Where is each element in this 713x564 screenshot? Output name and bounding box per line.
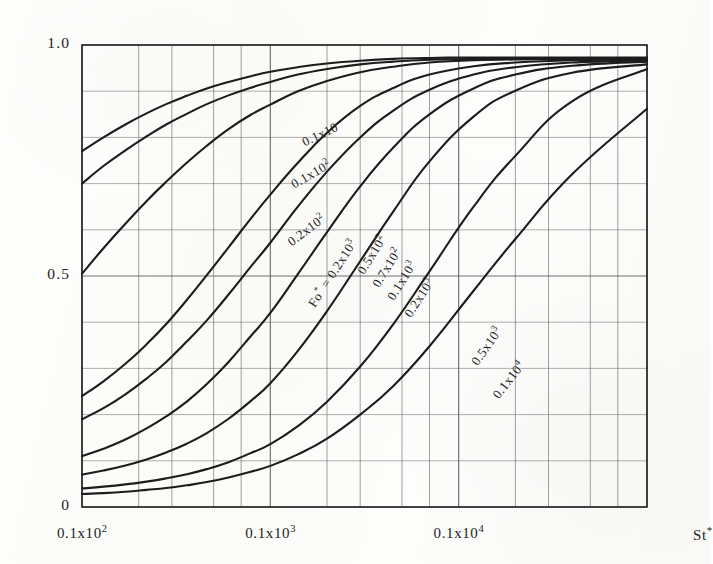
curve-0-1x10-4 <box>82 109 647 494</box>
curve-0-1x10-2 <box>82 58 647 183</box>
x-axis-title: St* <box>693 524 713 544</box>
x-tick-label-2: 0.1x104 <box>417 523 501 542</box>
x-tick-label-0: 0.1x102 <box>40 523 124 542</box>
y-tick-label-0: 1.0 <box>0 34 70 52</box>
y-tick-label-2: 0 <box>0 496 70 514</box>
curve-0-5x10-2 <box>82 59 647 396</box>
curve-line <box>82 109 647 494</box>
curve-0-7x10-2 <box>82 60 647 419</box>
curve-0-5x10-3 <box>82 69 647 489</box>
curve-line <box>82 60 647 419</box>
y-tick-label-1: 0.5 <box>0 265 70 283</box>
curve-line <box>82 58 647 183</box>
curve-line <box>82 69 647 489</box>
x-tick-label-1: 0.1x103 <box>228 523 312 542</box>
curve-line <box>82 59 647 396</box>
